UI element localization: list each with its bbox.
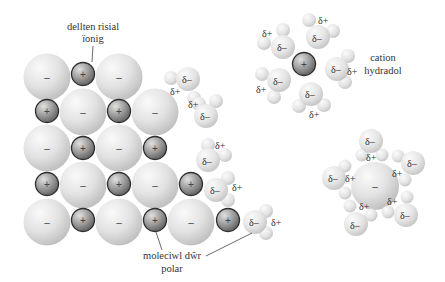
delta-minus-label: δ– — [210, 185, 221, 196]
delta-minus-label: δ– — [305, 89, 316, 100]
cation: + — [72, 63, 95, 86]
plus-icon: + — [44, 179, 50, 190]
minus-icon: – — [152, 107, 158, 118]
cation: + — [217, 209, 240, 232]
delta-plus-label: δ+ — [271, 217, 282, 228]
cation: + — [108, 173, 131, 196]
polar-water-label: moleciwl dŵr — [143, 250, 202, 261]
polar-water-label-line2: polar — [161, 263, 183, 274]
anion: – — [24, 125, 71, 172]
water-molecule: δ– δ+ — [255, 67, 291, 104]
minus-icon: – — [44, 143, 50, 154]
delta-plus-label: δ+ — [359, 201, 370, 212]
cation: + — [72, 209, 95, 232]
ionic-crystal-label-line2: ïonig — [81, 33, 104, 44]
hydrated-cation: δ– δ+ δ– δ+ δ– δ+ δ– δ+ — [255, 13, 358, 120]
delta-minus-label: δ– — [182, 74, 193, 85]
delta-minus-label: δ– — [249, 217, 260, 228]
plus-icon: + — [80, 215, 86, 226]
leader-line — [206, 233, 252, 256]
delta-plus-label: δ+ — [188, 99, 199, 110]
delta-plus-label: δ+ — [366, 152, 377, 163]
anion: – — [96, 54, 143, 101]
delta-plus-label: δ+ — [387, 196, 398, 207]
ionic-dissolution-diagram: – – – – – – – – – – – + + + + + + + + + … — [0, 0, 445, 282]
leader-line — [156, 232, 162, 250]
anion: – — [96, 125, 143, 172]
delta-minus-label: δ– — [365, 136, 376, 147]
minus-icon: – — [80, 107, 86, 118]
water-molecule: δ– δ+ — [356, 129, 389, 163]
minus-icon: – — [116, 217, 122, 228]
delta-minus-label: δ– — [350, 220, 361, 231]
delta-plus-label: δ+ — [347, 66, 358, 77]
ionic-crystal-label: dellten risial — [67, 21, 119, 32]
hydrated-cation-label-line2: hydradol — [364, 65, 401, 76]
leader-line — [92, 46, 93, 62]
water-molecule: δ– δ+ — [188, 94, 223, 128]
anion: – — [24, 54, 71, 101]
water-molecule: δ– δ+ — [322, 160, 356, 200]
minus-icon: – — [80, 180, 86, 191]
cation: + — [180, 173, 203, 196]
plus-icon: + — [44, 106, 50, 117]
cation: + — [36, 173, 59, 196]
minus-icon: – — [116, 143, 122, 154]
delta-minus-label: δ– — [407, 158, 418, 169]
cation: + — [144, 137, 167, 160]
plus-icon: + — [225, 215, 231, 226]
water-molecule: δ– δ+ — [204, 171, 243, 207]
plus-icon: + — [80, 143, 86, 154]
minus-icon: – — [188, 217, 194, 228]
delta-plus-label: δ+ — [345, 173, 356, 184]
water-molecule: δ– δ+ — [325, 49, 358, 89]
delta-minus-label: δ– — [331, 64, 342, 75]
cation: + — [144, 209, 167, 232]
cation: + — [293, 53, 316, 76]
delta-minus-label: δ– — [200, 111, 211, 122]
plus-icon: + — [301, 59, 307, 70]
water-molecule: δ– δ+ — [292, 82, 331, 120]
water-molecule: δ– δ+ — [382, 191, 419, 228]
delta-plus-label: δ+ — [392, 168, 403, 179]
anion: – — [96, 199, 143, 246]
delta-minus-label: δ– — [328, 173, 339, 184]
cation: + — [108, 100, 131, 123]
anion: – — [60, 162, 107, 209]
delta-minus-label: δ– — [400, 210, 411, 221]
plus-icon: + — [152, 215, 158, 226]
delta-plus-label: δ+ — [318, 15, 329, 26]
cation: + — [72, 137, 95, 160]
delta-minus-label: δ– — [277, 42, 288, 53]
cation: + — [36, 100, 59, 123]
minus-icon: – — [44, 72, 50, 83]
minus-icon: – — [116, 72, 122, 83]
water-molecule: δ– δ+ — [257, 23, 295, 59]
plus-icon: + — [116, 106, 122, 117]
anion: – — [132, 162, 179, 209]
delta-plus-label: δ+ — [256, 84, 267, 95]
plus-icon: + — [152, 143, 158, 154]
delta-minus-label: δ– — [312, 33, 323, 44]
delta-plus-label: δ+ — [309, 109, 320, 120]
anion: – — [60, 89, 107, 136]
minus-icon: – — [372, 181, 378, 192]
plus-icon: + — [80, 69, 86, 80]
water-molecule: δ– δ+ — [302, 13, 340, 49]
minus-icon: – — [152, 180, 158, 191]
hydrated-anion: – δ– δ+ δ– δ+ δ– δ+ — [322, 129, 425, 236]
anion: – — [168, 199, 215, 246]
hydrated-cation-label: cation — [370, 52, 396, 63]
water-molecule: δ– δ+ — [196, 138, 232, 172]
delta-minus-label: δ– — [273, 76, 284, 87]
anion: – — [24, 199, 71, 246]
delta-plus-label: δ+ — [215, 140, 226, 151]
minus-icon: – — [44, 217, 50, 228]
delta-plus-label: δ+ — [232, 182, 243, 193]
plus-icon: + — [116, 179, 122, 190]
delta-minus-label: δ– — [202, 156, 213, 167]
plus-icon: + — [188, 179, 194, 190]
delta-plus-label: δ+ — [262, 28, 273, 39]
delta-plus-label: δ+ — [170, 86, 181, 97]
